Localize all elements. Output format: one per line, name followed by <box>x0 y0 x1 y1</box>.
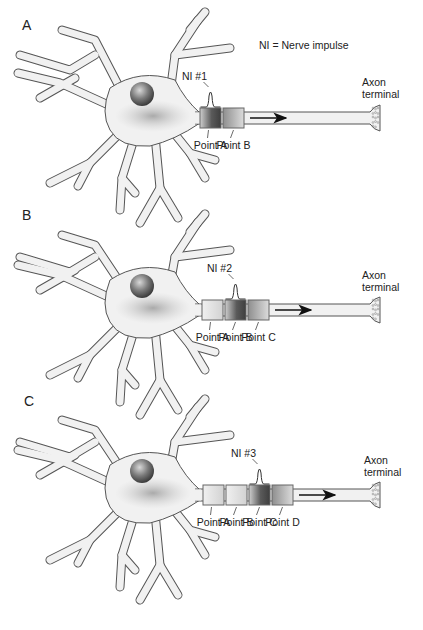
point-box <box>272 485 293 505</box>
panel-letter: C <box>24 393 34 409</box>
point-box <box>202 300 223 320</box>
axon-terminal-label: terminal <box>362 88 399 100</box>
axon-terminal-label: terminal <box>362 281 399 293</box>
axon-join <box>191 305 201 316</box>
point-leader <box>257 507 260 515</box>
soma-shading <box>115 477 191 509</box>
point-leader <box>280 507 283 515</box>
point-leader <box>208 130 209 138</box>
point-leader <box>256 322 259 330</box>
impulse-leader <box>229 274 234 279</box>
point-label: Point B <box>217 139 251 151</box>
axon-terminal-label: Axon <box>362 269 386 281</box>
point-box <box>200 108 221 128</box>
panel-c: CPoint APoint BPoint CPoint DNI #3Axonte… <box>18 393 401 600</box>
dendrite <box>160 565 178 595</box>
point-box <box>226 485 247 505</box>
point-leader <box>231 130 234 138</box>
point-box <box>249 485 270 505</box>
soma-shading <box>115 292 191 324</box>
panel-b: BPoint APoint BPoint CNI #2Axonterminal <box>18 207 399 415</box>
point-leader <box>234 507 237 515</box>
point-label: Point D <box>265 516 300 528</box>
point-box <box>203 485 224 505</box>
impulse-spike <box>250 469 270 484</box>
panel-letter: B <box>22 207 31 223</box>
dendrite <box>160 188 178 218</box>
panel-letter: A <box>22 17 32 33</box>
point-box <box>225 300 246 320</box>
nucleus <box>130 274 154 298</box>
neuron-impulse-diagram: NI = Nerve impulse APoint APoint BNI #1A… <box>0 0 423 630</box>
nucleus <box>130 82 154 106</box>
impulse-spike <box>201 92 221 107</box>
point-box <box>223 108 244 128</box>
axon-join <box>191 490 201 501</box>
impulse-leader <box>253 459 258 464</box>
point-box <box>248 300 269 320</box>
impulse-label: NI #2 <box>207 262 232 274</box>
point-label: Point C <box>241 331 276 343</box>
soma-shading <box>115 100 191 132</box>
impulse-spike <box>226 284 246 299</box>
impulse-label: NI #1 <box>182 70 207 82</box>
axon-terminal-label: Axon <box>364 454 388 466</box>
point-leader <box>211 507 212 515</box>
dendrite <box>160 380 178 410</box>
legend-text: NI = Nerve impulse <box>259 39 349 51</box>
impulse-label: NI #3 <box>231 447 256 459</box>
point-leader <box>233 322 236 330</box>
axon-terminal-label: terminal <box>364 466 401 478</box>
point-leader <box>210 322 211 330</box>
nucleus <box>130 459 154 483</box>
axon-terminal-label: Axon <box>362 76 386 88</box>
impulse-leader <box>204 82 209 87</box>
